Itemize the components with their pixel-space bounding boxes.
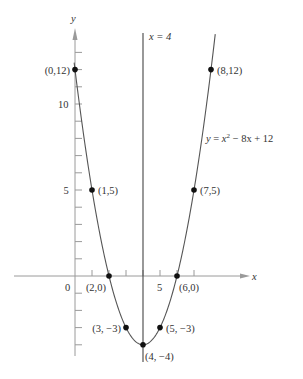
data-point bbox=[106, 273, 112, 279]
point-label: (8,12) bbox=[217, 65, 243, 77]
point-label: (1,5) bbox=[98, 185, 119, 197]
data-point bbox=[174, 273, 180, 279]
data-point bbox=[157, 325, 163, 331]
data-point bbox=[72, 67, 78, 73]
point-label: (0,12) bbox=[45, 65, 71, 77]
parabola-chart: 5 510 (0,12)(1,5)(2,0)(3, −3)(4, −4)(5, … bbox=[0, 0, 303, 379]
data-point bbox=[140, 342, 146, 348]
y-axis: 510 bbox=[58, 28, 82, 356]
x-axis-arrow-icon bbox=[240, 274, 250, 279]
data-point bbox=[208, 67, 214, 73]
point-label: (5, −3) bbox=[166, 323, 195, 335]
x-axis: 5 bbox=[14, 270, 250, 293]
labels: y x 0 x = 4 y = x2 − 8x + 12 bbox=[65, 13, 273, 293]
equation-label: y = x2 − 8x + 12 bbox=[205, 132, 273, 144]
eq-rest: − 8x + 12 bbox=[230, 133, 273, 144]
point-label: (2,0) bbox=[86, 282, 107, 294]
point-label: (4, −4) bbox=[145, 351, 174, 363]
x-tick-label: 5 bbox=[157, 282, 162, 293]
origin-label: 0 bbox=[65, 282, 70, 293]
point-label: (6,0) bbox=[179, 282, 200, 294]
data-points: (0,12)(1,5)(2,0)(3, −3)(4, −4)(5, −3)(6,… bbox=[45, 65, 243, 363]
y-axis-arrow-icon bbox=[73, 28, 78, 40]
data-point bbox=[191, 187, 197, 193]
data-point bbox=[123, 325, 129, 331]
eq-sign: = bbox=[211, 133, 222, 144]
axis-of-symmetry-label-text: x = 4 bbox=[148, 31, 172, 42]
axis-of-symmetry-label: x = 4 bbox=[148, 31, 172, 42]
x-axis-label: x bbox=[251, 271, 257, 282]
y-tick-label: 10 bbox=[58, 99, 69, 110]
data-point bbox=[89, 187, 95, 193]
point-label: (3, −3) bbox=[92, 323, 121, 335]
y-axis-label: y bbox=[70, 13, 76, 24]
y-tick-label: 5 bbox=[64, 185, 69, 196]
point-label: (7,5) bbox=[200, 185, 221, 197]
